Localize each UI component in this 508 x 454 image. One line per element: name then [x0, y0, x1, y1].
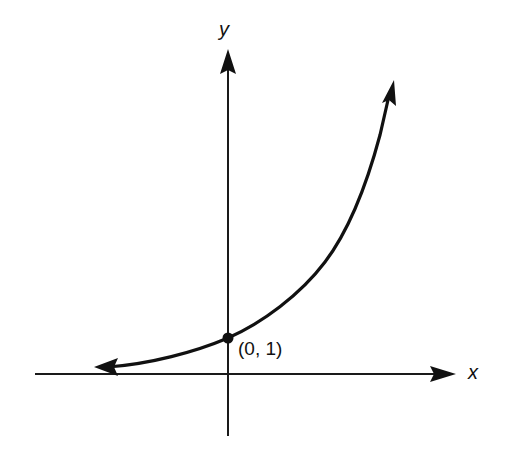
y-axis	[220, 49, 236, 436]
exponential-graph	[0, 0, 508, 454]
y-axis-label: y	[219, 18, 229, 41]
point-label: (0, 1)	[238, 338, 282, 360]
exponential-curve	[94, 80, 396, 376]
x-axis-label: x	[468, 361, 478, 384]
point-0-1-dot	[223, 333, 234, 344]
